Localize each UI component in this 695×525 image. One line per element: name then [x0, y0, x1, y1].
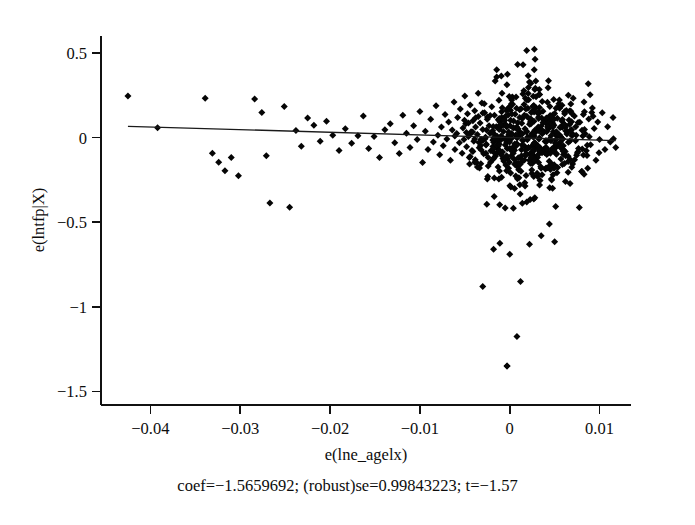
scatter-point	[459, 150, 466, 157]
scatter-point	[499, 90, 506, 97]
scatter-point	[584, 165, 591, 172]
scatter-point	[479, 283, 486, 290]
scatter-point	[464, 110, 471, 117]
x-tick-label: 0	[506, 419, 514, 438]
scatter-point	[546, 220, 553, 227]
scatter-point	[601, 146, 608, 153]
scatter-point	[576, 204, 583, 211]
scatter-point	[503, 81, 510, 88]
scatter-point	[491, 193, 498, 200]
scatter-point	[599, 109, 606, 116]
scatter-point	[488, 103, 495, 110]
x-tick-labels: −0.04−0.03−0.02−0.0100.01	[131, 419, 614, 438]
scatter-point	[414, 136, 421, 143]
scatter-point	[592, 157, 599, 164]
scatter-point	[443, 135, 450, 142]
scatter-point	[495, 97, 502, 104]
scatter-point	[399, 112, 406, 119]
scatter-point	[202, 95, 209, 102]
scatter-point	[587, 91, 594, 98]
y-tick-label: −0.5	[57, 213, 87, 232]
scatter-points	[124, 46, 619, 370]
scatter-point	[545, 77, 552, 84]
scatter-point	[263, 152, 270, 159]
x-axis-label: e(lne_agelx)	[325, 445, 407, 464]
scatter-point	[292, 127, 299, 134]
scatter-point	[310, 122, 317, 129]
scatter-point	[348, 140, 355, 147]
scatter-point	[436, 151, 443, 158]
scatter-point	[422, 128, 429, 135]
scatter-point	[548, 177, 555, 184]
scatter-point	[523, 172, 530, 179]
scatter-point	[323, 118, 330, 125]
x-tick-label: −0.04	[131, 419, 169, 438]
scatter-point	[525, 72, 532, 79]
scatter-point	[457, 106, 464, 113]
scatter-point	[585, 80, 592, 87]
x-tick-marks	[150, 405, 599, 414]
scatter-point	[445, 118, 452, 125]
scatter-point	[451, 99, 458, 106]
y-tick-label: 0	[79, 129, 87, 148]
scatter-point	[517, 278, 524, 285]
scatter-point	[591, 125, 598, 132]
scatter-point	[517, 191, 524, 198]
y-tick-label: 0.5	[66, 44, 87, 63]
scatter-point	[523, 47, 530, 54]
scatter-point	[552, 203, 559, 210]
scatter-point	[510, 205, 517, 212]
scatter-point	[483, 201, 490, 208]
scatter-point	[221, 167, 228, 174]
scatter-point	[496, 240, 503, 247]
scatter-point	[258, 109, 265, 116]
scatter-point	[502, 204, 509, 211]
scatter-point	[595, 149, 602, 156]
scatter-point	[442, 111, 449, 118]
scatter-point	[215, 159, 222, 166]
scatter-point	[528, 166, 535, 173]
x-tick-label: 0.01	[585, 419, 614, 438]
y-tick-label: −1.5	[57, 382, 87, 401]
scatter-point	[228, 154, 235, 161]
x-tick-label: −0.01	[401, 419, 439, 438]
scatter-point	[407, 144, 414, 151]
scatter-point	[550, 96, 557, 103]
scatter-point	[475, 90, 482, 97]
scatter-point	[565, 169, 572, 176]
x-tick-label: −0.03	[221, 419, 259, 438]
scatter-point	[391, 139, 398, 146]
scatter-point	[209, 150, 216, 157]
scatter-point	[545, 84, 552, 91]
scatter-point	[539, 98, 546, 105]
scatter-point	[471, 107, 478, 114]
scatter-point	[427, 116, 434, 123]
scatter-point	[463, 143, 470, 150]
scatter-point	[251, 95, 258, 102]
scatter-point	[490, 246, 497, 253]
scatter-point	[594, 118, 601, 125]
scatter-point	[304, 114, 311, 121]
scatter-point	[493, 66, 500, 73]
scatter-point	[580, 98, 587, 105]
scatter-point	[430, 138, 437, 145]
scatter-point	[336, 147, 343, 154]
y-tick-marks	[92, 53, 101, 392]
scatter-point	[477, 120, 484, 127]
scatter-point	[612, 144, 619, 151]
scatter-point	[424, 146, 431, 153]
scatter-point	[526, 241, 533, 248]
scatter-point	[381, 126, 388, 133]
scatter-point	[438, 124, 445, 131]
scatter-point	[416, 108, 423, 115]
y-tick-labels: 0.50−0.5−1−1.5	[57, 44, 87, 402]
scatter-point	[513, 333, 520, 340]
scatter-point	[551, 238, 558, 245]
y-axis-label: e(lntfp|X)	[29, 188, 48, 253]
scatter-point	[376, 154, 383, 161]
scatter-point	[396, 150, 403, 157]
scatter-point	[342, 125, 349, 132]
scatter-point	[604, 123, 611, 130]
scatter-point	[504, 71, 511, 78]
scatter-point	[124, 93, 131, 100]
